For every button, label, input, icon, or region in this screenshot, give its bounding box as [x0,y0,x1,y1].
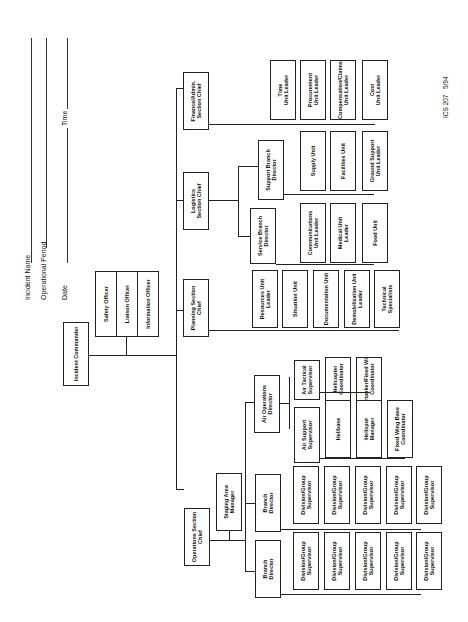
form-id: ICS 207 5/94 [442,76,449,118]
ground-support-unit-box: Ground Support Unit Leader [362,131,388,191]
situation-unit-box: Situation Unit [282,270,308,328]
time-rule[interactable] [67,38,68,263]
division-supervisor-box: Division/Group Supervisor [293,532,319,590]
finance-chief-box: Finance/Admin. Section Chief [183,72,209,130]
division-supervisor-box: Division/Group Supervisor [355,532,381,590]
branch-director-box-1: Branch Director [255,474,281,532]
communications-unit-box: Communications Unit Leader [300,203,326,263]
air-support-box: Air Support Supervisor [294,407,320,463]
staging-area-box: Staging Area Manager [216,473,242,531]
division-supervisor-box: Division/Group Supervisor [416,466,442,524]
time-unit-box: Time Unit Leader [270,60,296,120]
planning-chief-box: Planning Section Chief [183,279,209,337]
branch-director-box-2: Branch Director [255,540,281,598]
technical-specialists-box: Technical Specialists [374,270,400,328]
incident-commander-box: Incident Commander [63,322,89,386]
food-unit-box: Food Unit [362,203,388,263]
air-tactical-box: Air Tactical Supervisor [294,360,320,400]
documentation-unit-box: Documentation Unit [313,270,339,328]
operational-period-label: Operational Period [40,242,47,300]
support-branch-box: Support Branch Director [258,140,284,200]
information-officer-box: Information Officer [137,271,159,337]
compensation-claims-unit-box: Compensation/Claims Unit Leader [330,60,356,120]
service-branch-box: Service Branch Director [250,208,276,264]
airtanker-coordinator-box: Airtanker/Fixed Wing Coordinator [356,357,382,401]
facilities-unit-box: Facilities Unit [330,131,356,191]
operations-chief-box: Operations Section Chief [184,508,210,566]
demobilization-unit-box: Demobilization Unit Leader [344,270,370,328]
division-supervisor-box: Division/Group Supervisor [293,466,319,524]
division-supervisor-box: Division/Group Supervisor [324,466,350,524]
division-supervisor-box: Division/Group Supervisor [355,466,381,524]
helicopter-coordinator-box: Helicopter Coordinator [325,357,351,401]
incident-name-rule[interactable] [31,38,32,263]
helibase-box: Helibase [325,400,351,458]
logistics-chief-box: Logistics Section Chief [183,172,209,230]
division-supervisor-box: Division/Group Supervisor [324,532,350,590]
division-supervisor-box: Division/Group Supervisor [386,532,412,590]
date-label: Date [61,285,68,300]
air-operations-director-box: Air Operations Director [254,375,280,433]
fixed-wing-base-box: Fixed Wing Base Coordinator [387,400,413,458]
safety-officer-box: Safety Officer [95,271,117,337]
liaison-officer-box: Liaison Officer [116,271,138,337]
supply-unit-box: Supply Unit [300,131,326,191]
helispot-manager-box: Helispot Manager [356,400,382,458]
incident-name-label: Incident Name [24,255,31,300]
procurement-unit-box: Procurement Unit Leader [300,60,326,120]
time-label: Time [61,109,68,128]
cost-unit-box: Cost Unit Leader [362,60,388,120]
resources-unit-box: Resources Unit Leader [252,270,278,328]
division-supervisor-box: Division/Group Supervisor [416,532,442,590]
division-supervisor-box: Division/Group Supervisor [386,466,412,524]
medical-unit-box: Medical Unit Leader [330,203,356,263]
operational-period-rule[interactable] [46,38,47,248]
